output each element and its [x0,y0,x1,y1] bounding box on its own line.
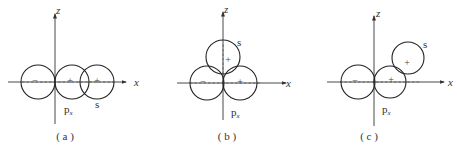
z-label: z [375,7,381,19]
px-label: px [64,103,74,117]
px-label: px [231,106,241,120]
sign-minus: − [32,75,38,86]
caption-a: ( a ) [56,130,74,143]
panel-a: − + + z x px s ( a ) [8,4,139,143]
sign-minus: − [200,76,206,87]
s-label: s [95,98,99,110]
z-label: z [223,3,229,15]
panel-c: − + + z x px s ( c ) [327,7,453,143]
sign-plus: + [237,76,243,87]
x-label: x [285,77,291,89]
px-label: px [382,103,392,117]
s-label: s [423,38,427,50]
x-label: x [447,76,453,88]
sign-minus: − [352,75,358,86]
caption-c: ( c ) [360,130,378,143]
sign-plus: + [388,74,394,85]
panel-b: − + + z x px s ( b ) [177,3,291,143]
orbital-overlap-figure: − + + z x px s ( a ) − + + z x px s ( b … [0,0,457,152]
sign-plus-s: + [404,57,410,68]
z-label: z [55,4,61,16]
sign-plus: + [67,75,73,86]
caption-b: ( b ) [218,130,237,143]
s-label: s [237,36,241,48]
sign-plus-s: + [94,75,100,86]
x-label: x [133,76,139,88]
sign-plus-s: + [225,54,231,65]
